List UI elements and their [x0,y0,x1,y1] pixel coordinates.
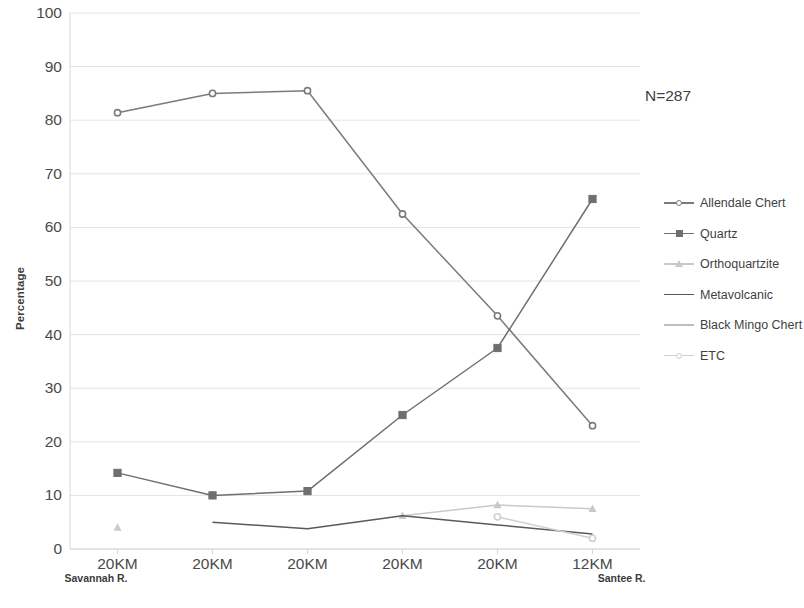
y-axis-tick-labels: 0102030405060708090100 [14,0,62,608]
legend-swatch [664,196,694,210]
y-axis-tick-label: 50 [18,273,62,289]
x-axis-tick-labels: 20KMSavannah R.20KM20KM20KM20KM12KMSante… [70,556,640,606]
series-allendale-chert [114,88,595,429]
y-axis-tick-label: 100 [18,5,62,21]
legend-label: Quartz [700,228,738,241]
data-point-marker [209,90,215,96]
x-axis-tick: 20KM [158,556,268,572]
legend-label: ETC [700,350,725,363]
legend-item[interactable]: Metavolcanic [664,280,804,311]
y-axis-tick-label: 90 [18,59,62,75]
legend-line-icon [664,294,694,295]
data-point-marker [304,488,311,495]
legend-square-icon [676,230,683,237]
legend-swatch [664,227,694,241]
data-point-marker [589,423,595,429]
x-axis-distance-label: 20KM [443,556,553,572]
series-orthoquartzite [114,501,597,531]
legend-label: Allendale Chert [700,197,785,210]
legend-item[interactable]: ETC [664,341,804,372]
legend-item[interactable]: Quartz [664,219,804,250]
legend-circle-icon [676,353,682,359]
legend-circle-icon [676,200,682,206]
legend-item[interactable]: Orthoquartzite [664,249,804,280]
gridlines [70,13,640,549]
series-line [118,199,593,495]
legend-item[interactable]: Black Mingo Chert [664,310,804,341]
x-axis-tick: 20KM [348,556,458,572]
x-axis-tick: 20KM [253,556,363,572]
legend-label: Black Mingo Chert [700,319,802,332]
x-axis-distance-label: 20KM [63,556,173,572]
legend-triangle-icon [675,260,683,267]
data-point-marker [114,110,120,116]
legend-item[interactable]: Allendale Chert [664,188,804,219]
data-point-marker [494,344,501,351]
x-axis-distance-label: 20KM [158,556,268,572]
data-point-marker [209,492,216,499]
y-axis-tick-label: 30 [18,380,62,396]
series-line [118,91,593,426]
data-point-marker [589,195,596,202]
x-axis-tick: 12KMSantee R. [538,556,648,585]
legend-line-icon [664,324,694,325]
series-etc [494,514,595,542]
data-point-marker [494,313,500,319]
axis-lines [70,13,640,554]
x-axis-distance-label: 20KM [348,556,458,572]
x-axis-tick: 20KMSavannah R. [63,556,173,585]
plot-svg [70,13,640,549]
y-axis-tick-label: 10 [18,487,62,503]
data-point-marker [114,523,122,530]
x-axis-tick: 20KM [443,556,553,572]
x-axis-distance-label: 20KM [253,556,363,572]
data-point-marker [114,469,121,476]
data-point-marker [494,514,500,520]
legend-label: Metavolcanic [700,289,773,302]
data-point-marker [399,211,405,217]
legend-swatch [664,288,694,302]
data-point-marker [589,535,595,541]
y-axis-tick-label: 20 [18,434,62,450]
legend-label: Orthoquartzite [700,258,779,271]
sample-size-annotation: N=287 [645,87,691,105]
y-axis-tick-label: 60 [18,219,62,235]
data-point-marker [304,88,310,94]
plot-area [70,13,640,549]
series-layer [114,88,597,542]
y-axis-tick-label: 0 [18,541,62,557]
legend: Allendale ChertQuartzOrthoquartziteMetav… [664,188,804,371]
x-axis-distance-label: 12KM [538,556,648,572]
y-axis-tick-label: 80 [18,112,62,128]
x-axis-river-label-left: Savannah R. [63,572,173,585]
y-axis-tick-label: 40 [18,327,62,343]
series-line [498,517,593,538]
legend-swatch [664,318,694,332]
x-axis-river-label-right: Santee R. [538,572,648,585]
data-point-marker [399,411,406,418]
legend-swatch [664,349,694,363]
y-axis-tick-label: 70 [18,166,62,182]
legend-swatch [664,257,694,271]
